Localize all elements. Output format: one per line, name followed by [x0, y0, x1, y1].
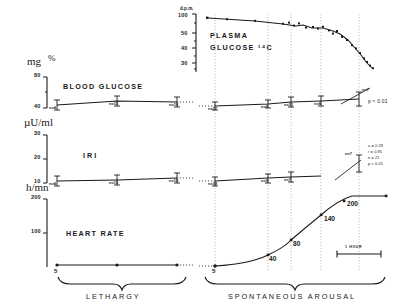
- panel-heart-rate-lethargy-axis: [43, 199, 47, 267]
- iri-stat-r: r = 0.95: [368, 150, 382, 155]
- blood-glucose-ar-n-3: n=11: [284, 103, 293, 107]
- plasma-tick-40: 40: [181, 46, 188, 52]
- blood-glucose-title: BLOOD GLUCOSE: [63, 83, 143, 90]
- blood-glucose-leth-n-3: n=19: [169, 103, 178, 107]
- heart-rate-unit-label: h/mn: [26, 182, 49, 193]
- iri-ar-n-3: n=7: [284, 178, 291, 182]
- heart-rate-ar-value-200: 200: [347, 201, 358, 208]
- heart-rate-ar-value-40: 40: [269, 256, 276, 263]
- heart-rate-leth-value-5: 5: [54, 268, 57, 274]
- iri-tick-30: 30: [34, 131, 41, 137]
- blood-glucose-ar-n-2: n=9: [261, 105, 268, 109]
- plasma-glucose-title-line1: PLASMA: [210, 32, 248, 39]
- iri-stat-n: n = 21: [368, 156, 380, 161]
- plasma-tick-30: 30: [181, 61, 188, 67]
- blood-glucose-ar-n-4: n=8: [314, 102, 321, 106]
- iri-ar-n-2: n=9: [261, 179, 268, 183]
- iri-stat-a: a = 0.28: [368, 144, 383, 149]
- heart-rate-ar-value-5: 5: [212, 268, 215, 274]
- blood-glucose-leth-n-1: n=4: [49, 106, 56, 110]
- panel-blood-glucose-lethargy-axis: [43, 77, 47, 108]
- heart-rate-arousal-trace: [199, 195, 387, 268]
- iri-leth-n-2: n=13: [109, 181, 118, 185]
- heart-rate-ar-value-80: 80: [293, 241, 300, 248]
- blood-glucose-tick-80: 80: [34, 73, 41, 79]
- condition-label-lethargy: LETHARGY: [86, 293, 141, 300]
- blood-glucose-tick-40: 40: [34, 104, 41, 110]
- figure-canvas: .ax{stroke:#1b1b1b;stroke-width:1.1;fill…: [0, 0, 408, 307]
- iri-ar-n-1: n=18: [208, 182, 217, 186]
- iri-title: IRI: [83, 152, 98, 159]
- iri-ar-n-4: n=7: [345, 152, 352, 156]
- heart-rate-title: HEART RATE: [66, 230, 125, 237]
- scale-bar-label: 1 HOUR: [345, 246, 362, 250]
- brace-spontaneous-arousal: [205, 277, 385, 290]
- iri-unit-label: µU/ml: [24, 117, 53, 128]
- blood-glucose-ar-n-1: n=17: [208, 107, 217, 111]
- heart-rate-tick-200: 200: [31, 195, 41, 201]
- iri-leth-n-1: n=4: [49, 182, 56, 186]
- condition-label-spontaneous-arousal: SPONTANEOUS AROUSAL: [228, 293, 356, 300]
- heart-rate-tick-100: 100: [31, 229, 41, 235]
- panel-iri-lethargy-axis: [43, 135, 47, 183]
- time-gridlines-arousal: [215, 14, 359, 272]
- iri-stat-p: p < 0.01: [368, 162, 383, 167]
- plasma-tick-50: 50: [181, 31, 188, 37]
- blood-glucose-leth-n-2: n=13: [109, 102, 118, 106]
- heart-rate-lethargy-trace: [55, 263, 193, 266]
- blood-glucose-unit-label: mg: [27, 56, 41, 67]
- heart-rate-ar-value-140: 140: [324, 216, 335, 223]
- plasma-glucose-title-line2: GLUCOSE ¹⁴C: [210, 44, 273, 51]
- iri-tick-20: 20: [34, 155, 41, 161]
- brace-lethargy: [58, 277, 186, 290]
- blood-glucose-pvalue: p < 0.01: [368, 99, 388, 104]
- iri-arousal-trace: [199, 155, 362, 186]
- plasma-glucose-unit-label: d.p.m.: [180, 7, 194, 12]
- plasma-tick-100: 100: [178, 13, 188, 19]
- iri-leth-n-3: n=19: [169, 179, 178, 183]
- blood-glucose-unit-percent: %: [48, 54, 56, 63]
- blood-glucose-ar-n-5: n=7: [362, 88, 369, 92]
- panel-plasma-glucose-14c-axis: [192, 14, 196, 72]
